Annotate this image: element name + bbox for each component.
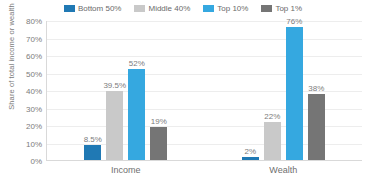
bar-value-label: 8.5%	[84, 135, 102, 144]
bar-group: 8.5%39.5%52%19%	[47, 21, 205, 160]
bar[interactable]	[106, 91, 123, 160]
legend-label: Middle 40%	[148, 4, 190, 13]
y-axis-tick-label: 30%	[26, 104, 42, 113]
bar[interactable]	[286, 27, 303, 160]
bar-value-label: 52%	[129, 59, 145, 68]
x-axis-category-label: Income	[47, 165, 205, 175]
bar[interactable]	[264, 122, 281, 161]
bar-slot: 38%	[308, 21, 325, 160]
legend-label: Top 1%	[275, 4, 302, 13]
y-axis-title: Share of total income or wealth	[7, 0, 16, 117]
y-axis-tick-label: 10%	[26, 139, 42, 148]
bar-value-label: 76%	[286, 17, 302, 26]
bar-slot: 39.5%	[106, 21, 123, 160]
legend-swatch-icon	[261, 5, 272, 12]
legend-item-middle-40[interactable]: Middle 40%	[134, 4, 190, 13]
bar-slot: 22%	[264, 21, 281, 160]
bar-chart: Bottom 50% Middle 40% Top 10% Top 1% Sha…	[0, 0, 366, 185]
bar[interactable]	[128, 69, 145, 160]
bar-slot: 8.5%	[84, 21, 101, 160]
bar-slot: 52%	[128, 21, 145, 160]
bar[interactable]	[84, 145, 101, 160]
legend-item-top-1[interactable]: Top 1%	[261, 4, 302, 13]
plot-area: 80%70%60%50%40%30%20%10%0% 8.5%39.5%52%1…	[46, 21, 362, 161]
y-axis-tick-label: 80%	[26, 17, 42, 26]
bar-slot: 76%	[286, 21, 303, 160]
bar-value-label: 22%	[264, 112, 280, 121]
y-axis-tick-label: 70%	[26, 34, 42, 43]
bar[interactable]	[308, 94, 325, 161]
bar[interactable]	[242, 157, 259, 161]
y-axis-tick-label: 40%	[26, 87, 42, 96]
bar-value-label: 39.5%	[103, 81, 126, 90]
legend-item-top-10[interactable]: Top 10%	[203, 4, 248, 13]
x-axis-line	[46, 160, 362, 161]
chart-legend: Bottom 50% Middle 40% Top 10% Top 1%	[0, 2, 366, 15]
bar-slot: 19%	[150, 21, 167, 160]
y-axis-tick-label: 60%	[26, 52, 42, 61]
bar-groups: 8.5%39.5%52%19%2%22%76%38%	[47, 21, 362, 160]
legend-swatch-icon	[203, 5, 214, 12]
x-axis-category-labels: IncomeWealth	[47, 165, 362, 175]
bar-value-label: 38%	[308, 84, 324, 93]
bar-value-label: 19%	[151, 117, 167, 126]
bar-group: 2%22%76%38%	[205, 21, 363, 160]
x-axis-category-label: Wealth	[205, 165, 363, 175]
legend-item-bottom-50[interactable]: Bottom 50%	[64, 4, 122, 13]
bar[interactable]	[150, 127, 167, 160]
y-axis-tick-label: 50%	[26, 69, 42, 78]
legend-label: Top 10%	[217, 4, 248, 13]
legend-swatch-icon	[134, 5, 145, 12]
legend-label: Bottom 50%	[78, 4, 122, 13]
bar-slot: 2%	[242, 21, 259, 160]
y-axis-tick-label: 20%	[26, 122, 42, 131]
y-axis-tick-label: 0%	[30, 157, 42, 166]
bar-value-label: 2%	[244, 147, 256, 156]
legend-swatch-icon	[64, 5, 75, 12]
